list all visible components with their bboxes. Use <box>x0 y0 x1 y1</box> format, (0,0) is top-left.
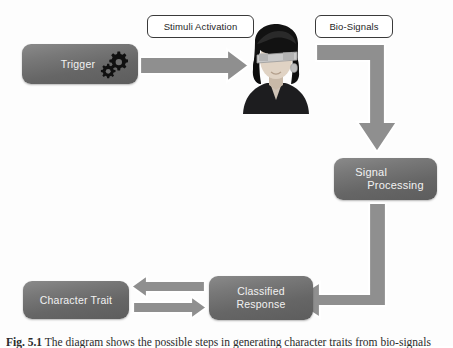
arrow-trigger-to-subject <box>140 49 249 82</box>
node-classified-response[interactable]: Classified Response <box>209 276 313 320</box>
figure-number: Fig. 5.1 <box>6 336 42 348</box>
arrow-subject-to-signal <box>316 44 397 152</box>
node-signal-processing[interactable]: Signal Processing <box>334 158 437 200</box>
edge-label-stimuli-activation: Stimuli Activation <box>147 15 254 38</box>
arrow-classified-to-trait <box>131 275 205 298</box>
edge-label-stimuli-activation-text: Stimuli Activation <box>164 21 238 32</box>
figure-caption: Fig. 5.1 The diagram shows the possible … <box>6 336 452 348</box>
node-character-trait[interactable]: Character Trait <box>23 281 129 319</box>
node-trigger-label: Trigger <box>61 58 95 71</box>
arrow-trait-to-classified <box>133 296 207 319</box>
edge-label-bio-signals-text: Bio-Signals <box>329 21 378 32</box>
node-classified-line1: Classified <box>237 285 285 297</box>
node-classified-line2: Response <box>237 298 286 310</box>
figure-caption-text: The diagram shows the possible steps in … <box>45 336 431 348</box>
node-character-trait-label: Character Trait <box>40 294 112 307</box>
node-signal-processing-label: Signal Processing <box>347 166 423 193</box>
gears-icon <box>98 49 128 79</box>
edge-label-bio-signals: Bio-Signals <box>315 15 393 38</box>
node-classified-response-label: Classified Response <box>237 285 286 311</box>
node-signal-line2: Processing <box>355 179 423 192</box>
node-trigger[interactable]: Trigger <box>22 44 138 84</box>
node-signal-line1: Signal <box>355 166 387 178</box>
